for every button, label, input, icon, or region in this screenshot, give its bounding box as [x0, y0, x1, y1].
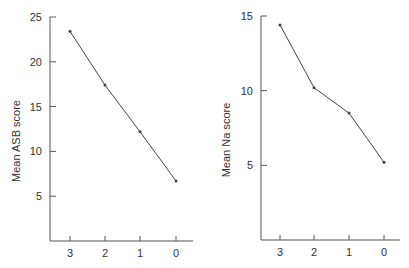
y-tick-label: 10: [241, 85, 253, 97]
chart-left-asb: 5101520253210Mean ASB score: [10, 11, 193, 259]
data-point: [139, 130, 142, 133]
y-axis-title: Mean Na score: [220, 103, 232, 178]
data-point: [313, 86, 316, 89]
data-point: [175, 179, 178, 182]
data-line: [280, 25, 384, 162]
x-tick-label: 2: [102, 247, 108, 259]
y-tick-label: 10: [30, 145, 42, 157]
data-point: [69, 30, 72, 33]
chart-right-na: 510153210Mean Na score: [220, 10, 400, 258]
x-tick-label: 3: [277, 246, 283, 258]
x-tick-label: 1: [346, 246, 352, 258]
y-tick-label: 20: [30, 56, 42, 68]
data-point: [279, 23, 282, 26]
data-point: [383, 161, 386, 164]
y-tick-label: 15: [241, 10, 253, 22]
y-tick-label: 15: [30, 101, 42, 113]
y-axis-title: Mean ASB score: [10, 100, 22, 182]
data-point: [104, 84, 107, 87]
x-tick-label: 3: [67, 247, 73, 259]
y-tick-label: 25: [30, 11, 42, 23]
x-tick-label: 0: [173, 247, 179, 259]
data-point: [348, 112, 351, 115]
data-line: [70, 31, 176, 181]
x-tick-label: 2: [311, 246, 317, 258]
chart-canvas: 5101520253210Mean ASB score 510153210Mea…: [0, 0, 409, 268]
x-tick-label: 1: [137, 247, 143, 259]
y-tick-label: 5: [36, 190, 42, 202]
x-tick-label: 0: [381, 246, 387, 258]
y-tick-label: 5: [247, 159, 253, 171]
